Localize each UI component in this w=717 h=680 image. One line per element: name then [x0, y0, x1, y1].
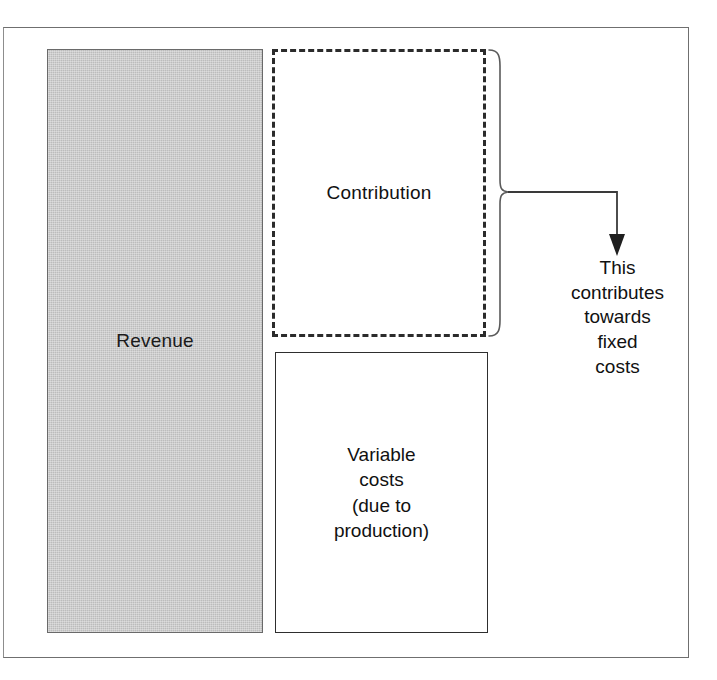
- annotation-line: contributes: [540, 281, 695, 306]
- figure-page: f Revenue Contribution Variable costs (d…: [0, 0, 717, 680]
- variable-costs-line: (due to: [334, 493, 429, 518]
- variable-costs-block: Variable costs (due to production): [275, 352, 488, 633]
- contribution-block: Contribution: [272, 49, 486, 337]
- variable-costs-block-label: Variable costs (due to production): [334, 442, 429, 543]
- annotation-line: towards: [540, 305, 695, 330]
- revenue-block-label: Revenue: [116, 330, 193, 352]
- variable-costs-line: production): [334, 518, 429, 543]
- variable-costs-line: Variable: [334, 442, 429, 467]
- annotation-line: costs: [540, 355, 695, 380]
- annotation-line: This: [540, 256, 695, 281]
- variable-costs-line: costs: [334, 467, 429, 492]
- annotation-label: This contributes towards fixed costs: [540, 256, 695, 379]
- revenue-block: Revenue: [47, 49, 263, 633]
- annotation-line: fixed: [540, 330, 695, 355]
- contribution-block-label: Contribution: [327, 182, 432, 204]
